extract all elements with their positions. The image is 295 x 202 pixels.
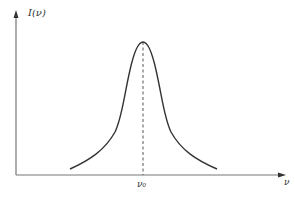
intensity-curve <box>70 42 217 169</box>
line-profile-diagram <box>0 0 295 202</box>
y-axis-arrow-icon <box>14 10 19 18</box>
center-frequency-label: ν₀ <box>137 180 146 189</box>
x-axis-label: ν <box>284 178 289 187</box>
y-axis-label: I(ν) <box>28 8 46 18</box>
